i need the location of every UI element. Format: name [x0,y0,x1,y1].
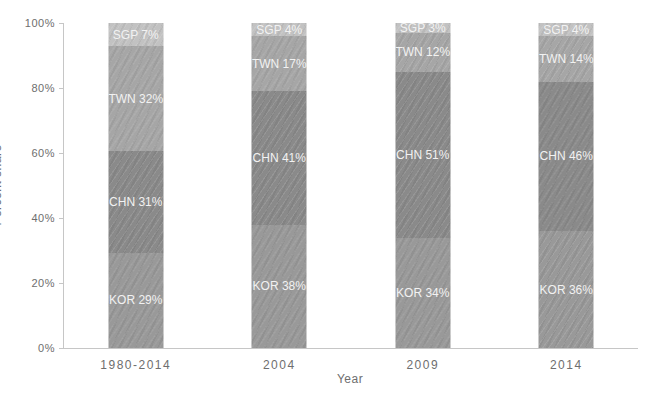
x-tick-label-1980-2014: 1980-2014 [100,358,171,372]
stacked-bar-1980-2014: KOR 29%CHN 31%TWN 32%SGP 7% [108,23,163,348]
segment-value-label: SGP 4% [543,24,589,36]
stacked-bar-2014: KOR 36%CHN 46%TWN 14%SGP 4% [539,23,594,348]
bar-segment-twn-1980-2014: TWN 32% [108,46,163,151]
y-tick-label: 60% [31,147,55,159]
bar-segment-sgp-1980-2014: SGP 7% [108,23,163,46]
bar-segment-kor-2004: KOR 38% [252,225,307,349]
segment-value-label: KOR 36% [540,284,593,296]
segment-value-label: CHN 51% [396,149,449,161]
segment-value-label: SGP 4% [256,24,302,36]
y-tick-label: 20% [31,277,55,289]
y-axis-tick: 20% [31,277,64,289]
y-axis-title: Percent share [0,144,4,225]
bar-segment-kor-1980-2014: KOR 29% [108,253,163,348]
y-tick-label: 0% [38,342,55,354]
bar-segment-twn-2004: TWN 17% [252,36,307,91]
segment-value-label: CHN 41% [253,152,306,164]
bar-slot-2004: KOR 38%CHN 41%TWN 17%SGP 4%2004 [208,23,352,348]
y-axis-tick: 40% [31,212,64,224]
y-axis-tick: 60% [31,147,64,159]
stacked-bar-chart: Percent share 0%20%40%60%80%100%KOR 29%C… [0,0,648,393]
bar-segment-kor-2009: KOR 34% [395,238,450,349]
bar-segment-twn-2014: TWN 14% [539,36,594,82]
x-tick-label-2009: 2009 [406,358,439,372]
bar-segment-sgp-2004: SGP 4% [252,23,307,36]
bar-slot-2014: KOR 36%CHN 46%TWN 14%SGP 4%2014 [495,23,639,348]
segment-value-label: KOR 34% [396,287,449,299]
bar-segment-sgp-2009: SGP 3% [395,23,450,33]
y-tick-label: 80% [31,82,55,94]
segment-value-label: TWN 12% [395,46,450,58]
y-axis-tick: 0% [38,342,64,354]
bar-segment-chn-1980-2014: CHN 31% [108,151,163,253]
bar-slot-1980-2014: KOR 29%CHN 31%TWN 32%SGP 7%1980-2014 [64,23,208,348]
bar-slot-2009: KOR 34%CHN 51%TWN 12%SGP 3%2009 [351,23,495,348]
y-tick-label: 100% [25,17,55,29]
y-tick-label: 40% [31,212,55,224]
y-axis-tick: 100% [25,17,64,29]
bar-segment-sgp-2014: SGP 4% [539,23,594,36]
stacked-bar-2004: KOR 38%CHN 41%TWN 17%SGP 4% [252,23,307,348]
segment-value-label: SGP 3% [400,22,446,34]
y-axis-tick: 80% [31,82,64,94]
segment-value-label: TWN 14% [539,53,594,65]
segment-value-label: KOR 29% [109,294,162,306]
segment-value-label: TWN 17% [252,58,307,70]
bar-segment-chn-2009: CHN 51% [395,72,450,238]
bar-segment-twn-2009: TWN 12% [395,33,450,72]
bar-segment-chn-2014: CHN 46% [539,82,594,232]
x-axis-title: Year [337,372,363,386]
bar-segment-kor-2014: KOR 36% [539,231,594,348]
segment-value-label: TWN 32% [108,93,163,105]
bar-segment-chn-2004: CHN 41% [252,91,307,224]
x-tick-label-2004: 2004 [263,358,296,372]
stacked-bar-2009: KOR 34%CHN 51%TWN 12%SGP 3% [395,23,450,348]
x-tick-label-2014: 2014 [550,358,583,372]
plot-area: 0%20%40%60%80%100%KOR 29%CHN 31%TWN 32%S… [63,23,638,349]
segment-value-label: CHN 31% [109,196,162,208]
segment-value-label: SGP 7% [113,29,159,41]
segment-value-label: KOR 38% [253,280,306,292]
segment-value-label: CHN 46% [540,150,593,162]
